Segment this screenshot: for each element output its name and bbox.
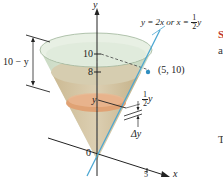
point-5-10 [146, 70, 150, 74]
side-text-fragment-2: a [218, 44, 223, 56]
equation-label: y = 2x or x = 12y [141, 14, 201, 31]
radius-label: 12y [142, 91, 152, 108]
tick-10-label: 10 [83, 49, 93, 59]
origin-label: 0 [86, 148, 91, 158]
delta-y-label: Δy [131, 129, 141, 139]
slice-y-label: y [92, 95, 96, 105]
y-axis-label: y [93, 0, 97, 10]
tick-8-label: 8 [88, 67, 93, 77]
side-text-fragment-1: S [218, 28, 223, 40]
water-region [51, 72, 141, 160]
tick-5-label: 5 [144, 171, 148, 179]
height-label: 10 − y [3, 57, 29, 67]
x-axis-label: x [173, 169, 177, 179]
point-label: (5, 10) [158, 65, 185, 75]
side-text-fragment-3: T [218, 133, 223, 145]
x-axis-arrow [161, 171, 170, 177]
